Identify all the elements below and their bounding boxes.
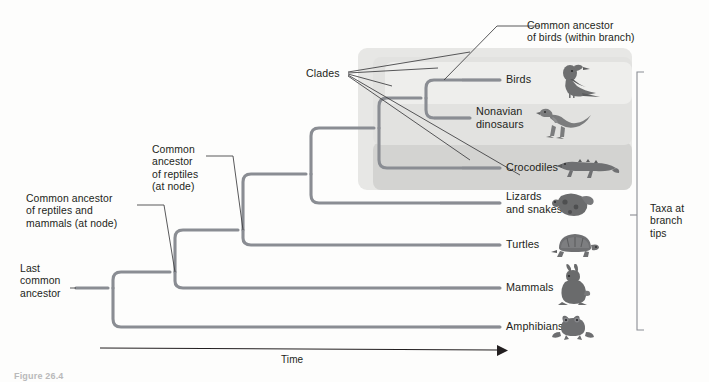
branch-node2-up: [175, 230, 238, 272]
branch-to-turtles: [243, 230, 500, 245]
bird-icon: [550, 60, 602, 100]
snake-icon: [551, 188, 597, 222]
time-axis: [100, 345, 508, 356]
annotation-common-ancestor-reptiles: Common ancestor of reptiles (at node): [152, 144, 198, 193]
tip-label-birds: Birds: [506, 73, 531, 86]
branch-to-mammals: [175, 272, 500, 288]
annotation-common-ancestor-birds: Common ancestor of birds (within branch): [527, 20, 635, 45]
rabbit-icon: [554, 264, 596, 308]
tree-canvas: [0, 0, 709, 382]
annotation-clades: Clades: [306, 67, 340, 79]
tip-label-nonavian-dinosaurs: Nonavian dinosaurs: [476, 105, 524, 130]
dinosaur-icon: [536, 100, 594, 140]
annotation-taxa-at-branch-tips: Taxa at branch tips: [650, 203, 684, 240]
turtle-icon: [549, 228, 601, 262]
tip-label-crocodiles: Crocodiles: [506, 161, 558, 174]
leader-common-ancestor-reptiles: [206, 156, 243, 230]
phylogenetic-tree-figure: Common ancestor of birds (within branch)…: [0, 0, 709, 382]
tip-label-mammals: Mammals: [506, 281, 554, 294]
axis-label-time: Time: [281, 354, 303, 366]
annotation-common-ancestor-reptiles-mammals: Common ancestor of reptiles and mammals …: [26, 193, 117, 230]
annotation-last-common-ancestor: Last common ancestor: [20, 263, 61, 300]
branch-root-up: [113, 272, 170, 288]
branch-node3-up: [243, 174, 306, 230]
leader-common-ancestor-reptiles-mammals: [137, 205, 175, 272]
branch-to-amphibians: [113, 288, 500, 327]
taxa-bracket: [630, 72, 644, 330]
figure-caption: Figure 26.4: [14, 371, 64, 381]
crocodile-icon: [556, 151, 620, 183]
tip-label-turtles: Turtles: [506, 238, 539, 251]
frog-icon: [549, 312, 597, 342]
